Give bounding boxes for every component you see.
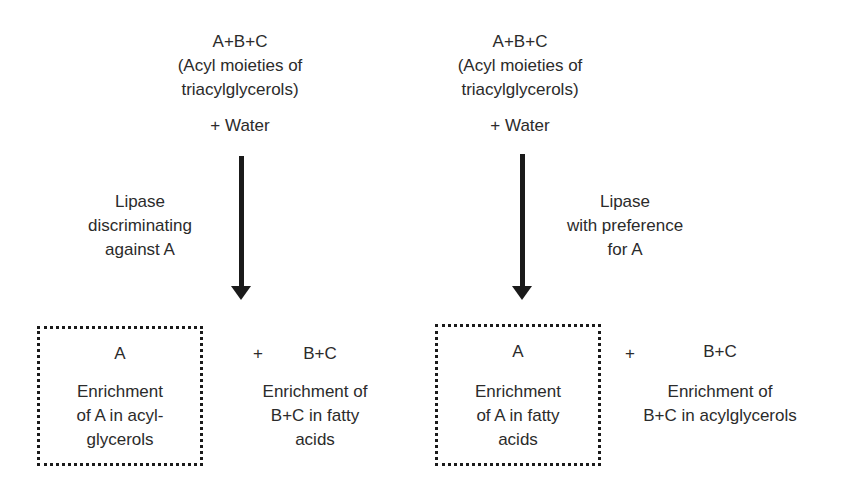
- right-reactants-note-1: (Acyl moieties of: [420, 54, 620, 78]
- right-reactants: A+B+C: [440, 30, 600, 54]
- right-enzyme-line-2: with preference: [540, 214, 710, 238]
- left-enzyme-line-3: against A: [60, 238, 220, 262]
- left-reactants-note-1: (Acyl moieties of: [140, 54, 340, 78]
- right-product-desc-1: Enrichment: [435, 380, 601, 404]
- left-product-label: A: [37, 342, 203, 366]
- left-other-desc-2: B+C in fatty: [240, 404, 390, 428]
- right-other-desc-2: B+C in acylglycerols: [620, 404, 820, 428]
- left-reactants-note-2: triacylglycerols): [140, 78, 340, 102]
- right-enzyme-line-1: Lipase: [540, 190, 710, 214]
- left-plus-sign: +: [248, 342, 268, 366]
- left-other-product-label: B+C: [280, 342, 360, 366]
- right-plus-sign: +: [620, 342, 640, 366]
- left-product-desc-2: of A in acyl-: [37, 404, 203, 428]
- right-reaction-arrow-shaft: [520, 154, 525, 288]
- left-other-desc-3: acids: [240, 428, 390, 452]
- left-enzyme-line-1: Lipase: [60, 190, 220, 214]
- right-product-label: A: [435, 340, 601, 364]
- right-other-product-label: B+C: [680, 340, 760, 364]
- left-enzyme-line-2: discriminating: [60, 214, 220, 238]
- right-product-desc-3: acids: [435, 428, 601, 452]
- right-product-desc-2: of A in fatty: [435, 404, 601, 428]
- right-water: + Water: [460, 114, 580, 138]
- left-reactants: A+B+C: [160, 30, 320, 54]
- right-arrow-head-icon: [512, 286, 532, 300]
- left-product-desc-3: glycerols: [37, 428, 203, 452]
- left-product-desc-1: Enrichment: [37, 380, 203, 404]
- left-other-desc-1: Enrichment of: [240, 380, 390, 404]
- left-arrow-head-icon: [231, 286, 251, 300]
- left-reaction-arrow-shaft: [239, 156, 244, 288]
- right-reactants-note-2: triacylglycerols): [420, 78, 620, 102]
- left-water: + Water: [180, 114, 300, 138]
- right-enzyme-line-3: for A: [540, 238, 710, 262]
- right-other-desc-1: Enrichment of: [620, 380, 820, 404]
